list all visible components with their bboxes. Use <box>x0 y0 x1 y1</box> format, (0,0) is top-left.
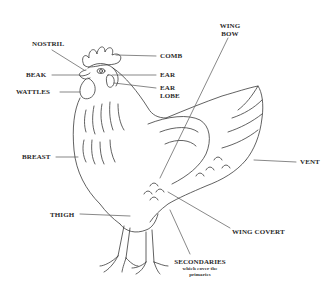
neck-back <box>113 68 166 118</box>
left-foot <box>100 256 138 272</box>
label-secondaries: SECONDARIES which cover the primaries <box>172 258 228 278</box>
wing-outline <box>148 117 209 184</box>
label-wing-bow: WING BOW <box>218 22 242 38</box>
beak-shape <box>79 70 90 76</box>
label-beak: BEAK <box>26 71 46 79</box>
label-nostril: NOSTRIL <box>32 40 64 48</box>
comb-shape <box>83 47 121 67</box>
label-breast: BREAST <box>22 153 51 161</box>
comb-leader <box>116 55 156 56</box>
label-thigh: THIGH <box>50 211 74 219</box>
label-comb: COMB <box>160 52 182 60</box>
secondaries-leader <box>170 210 190 254</box>
label-ear-lobe: EAR LOBE <box>160 84 180 100</box>
breast-outline <box>73 98 120 224</box>
wattles-shape <box>80 78 95 99</box>
ear-lobe-leader <box>114 83 156 88</box>
nostril-leader <box>52 50 84 70</box>
thigh-leader <box>80 214 130 216</box>
thigh-outline <box>120 214 158 232</box>
chicken-anatomy-diagram: NOSTRIL COMB BEAK EAR WATTLES EAR LOBE W… <box>0 0 336 299</box>
wing-covert-leader <box>168 192 230 228</box>
label-wing-covert: WING COVERT <box>232 228 285 236</box>
label-ear: EAR <box>160 71 175 79</box>
label-vent: VENT <box>300 158 320 166</box>
vent-leader <box>254 160 296 162</box>
label-wattles: WATTLES <box>16 88 50 96</box>
right-leg <box>146 230 154 262</box>
right-foot <box>132 262 168 274</box>
ear-lobe-shape <box>106 75 114 87</box>
